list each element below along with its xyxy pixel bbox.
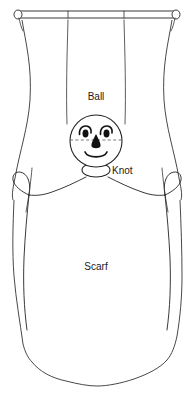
scarf-shoulder-right <box>108 177 165 195</box>
eye-left-pupil <box>83 130 89 138</box>
rod-group <box>14 10 180 31</box>
label-ball: Ball <box>88 91 105 102</box>
diagram-canvas: Ball Knot Scarf <box>0 0 195 400</box>
rod-cap-right-icon <box>172 10 180 19</box>
strings-group <box>67 20 126 124</box>
string-left <box>67 20 68 124</box>
scarf-lower-body <box>13 200 182 386</box>
scarf-group <box>12 20 182 386</box>
rod-cap-left-icon <box>14 10 22 19</box>
rod-bar <box>18 11 176 18</box>
scarf-shoulder-left <box>29 177 86 195</box>
label-knot: Knot <box>112 165 133 176</box>
label-scarf: Scarf <box>84 261 108 272</box>
eye-right-pupil <box>104 130 110 138</box>
scarf-ghost-diagram: Ball Knot Scarf <box>0 0 195 400</box>
ball-group <box>70 115 122 167</box>
string-right <box>124 20 125 124</box>
